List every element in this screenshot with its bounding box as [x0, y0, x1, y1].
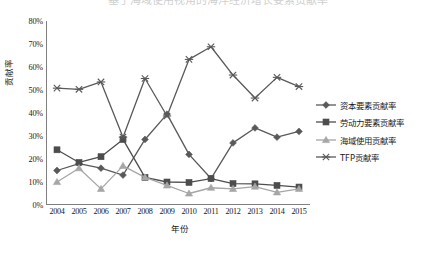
chart-title-clipped: 基于海域使用视角的海洋经济增长要素贡献率	[0, 0, 427, 10]
x-axis-tick-label: 2007	[115, 207, 130, 216]
legend-label: 资本要素贡献率	[340, 99, 396, 111]
cross-marker-icon	[315, 151, 337, 163]
x-axis-tick-label: 2009	[159, 207, 174, 216]
y-axis-tick-label: 0%	[32, 201, 43, 210]
x-axis-tick-label: 2013	[247, 207, 262, 216]
y-axis-title: 贡献率	[2, 59, 14, 86]
legend-label: TFP贡献率	[340, 151, 379, 163]
series-1	[54, 136, 302, 190]
x-axis-tick-label: 2006	[93, 207, 108, 216]
series-0	[54, 111, 303, 182]
x-axis-tick-label: 2012	[225, 207, 240, 216]
y-axis-tick-label: 40%	[29, 109, 43, 118]
triangle-marker-icon	[315, 134, 337, 146]
y-axis-tick-label: 60%	[29, 63, 43, 72]
line-chart: 基于海域使用视角的海洋经济增长要素贡献率 0%10%20%30%40%50%60…	[0, 0, 427, 254]
legend-label: 海域使用贡献率	[340, 134, 396, 146]
y-axis-tick-label: 50%	[29, 86, 43, 95]
y-axis-tick-labels: 0%10%20%30%40%50%60%70%80%	[0, 21, 43, 205]
legend-item-2[interactable]: 海域使用贡献率	[315, 131, 427, 149]
x-axis-tick-label: 2010	[181, 207, 196, 216]
legend-item-3[interactable]: TFP贡献率	[315, 149, 427, 167]
x-axis-tick-label: 2005	[71, 207, 86, 216]
x-axis-tick-label: 2008	[137, 207, 152, 216]
x-axis-title: 年份	[0, 222, 360, 234]
legend-label: 劳动力要素贡献率	[340, 116, 404, 128]
x-axis-tick-label: 2014	[269, 207, 284, 216]
diamond-marker-icon	[315, 99, 337, 111]
x-axis-tick-label: 2011	[204, 207, 219, 216]
x-axis-tick-label: 2004	[49, 207, 64, 216]
plot-svg	[46, 21, 310, 205]
chart-title-text: 基于海域使用视角的海洋经济增长要素贡献率	[108, 0, 328, 7]
legend-item-1[interactable]: 劳动力要素贡献率	[315, 114, 427, 132]
y-axis-tick-label: 30%	[29, 132, 43, 141]
x-axis-tick-labels: 2004200520062007200820092010201120122013…	[46, 207, 310, 221]
series-3	[53, 44, 303, 141]
y-axis-tick-label: 80%	[29, 17, 43, 26]
legend-item-0[interactable]: 资本要素贡献率	[315, 96, 427, 114]
series-2	[53, 162, 302, 196]
x-axis-tick-label: 2015	[291, 207, 306, 216]
plot-area	[46, 21, 310, 205]
y-axis-tick-label: 70%	[29, 40, 43, 49]
y-axis-tick-label: 10%	[29, 178, 43, 187]
y-axis-tick-label: 20%	[29, 155, 43, 164]
legend: 资本要素贡献率劳动力要素贡献率海域使用贡献率TFP贡献率	[315, 96, 427, 166]
square-marker-icon	[315, 116, 337, 128]
